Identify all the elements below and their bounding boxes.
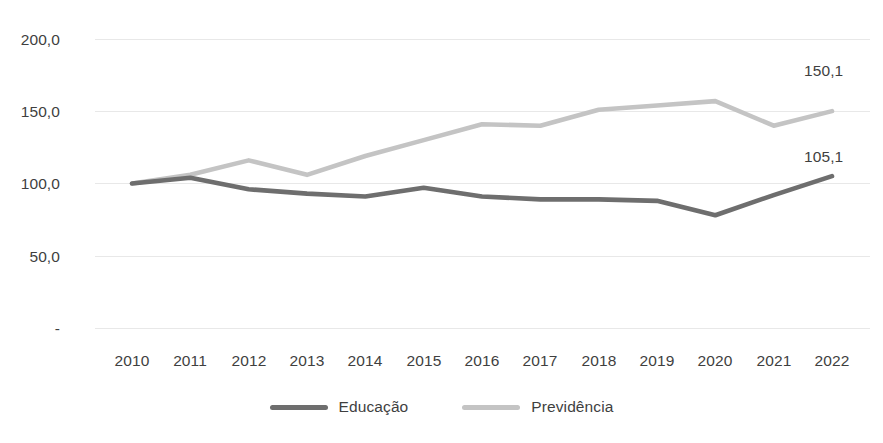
series-line-previdencia: [132, 101, 832, 183]
series-lines: [0, 0, 883, 443]
legend-label-educacao: Educação: [339, 398, 409, 416]
legend-label-previdencia: Previdência: [531, 398, 613, 416]
plot-area: 200,0 150,0 100,0 50,0 - 2010 2011 2012 …: [0, 0, 883, 443]
legend-swatch-educacao: [270, 405, 328, 410]
legend-item-previdencia[interactable]: Previdência: [462, 398, 613, 416]
legend-item-educacao[interactable]: Educação: [270, 398, 409, 416]
series-line-educacao: [132, 176, 832, 215]
data-label-previdencia-2022: 150,1: [804, 62, 843, 80]
line-chart: 200,0 150,0 100,0 50,0 - 2010 2011 2012 …: [0, 0, 883, 443]
data-label-educacao-2022: 105,1: [804, 148, 843, 166]
legend-swatch-previdencia: [462, 405, 520, 410]
chart-legend: Educação Previdência: [0, 398, 883, 416]
